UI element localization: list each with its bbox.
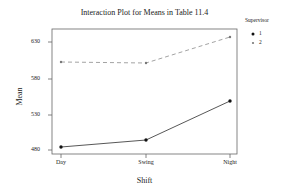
x-tick-night: Night [215,159,245,165]
y-tick-630: 630 [10,38,40,44]
legend-marker-1 [252,33,255,36]
legend-item-1: 1 [259,30,262,36]
y-axis-label: Mean [15,82,24,112]
series-2-line [61,37,230,63]
y-tick-530: 530 [10,111,40,117]
x-axis-label: Shift [52,176,237,185]
legend-label-2: 2 [259,39,262,45]
y-tick-480: 480 [10,146,40,152]
y-axis-ticks [48,42,52,150]
plot-frame [52,29,237,154]
x-tick-swing: Swing [131,159,161,165]
legend-label-1: 1 [259,30,262,36]
legend-title: Supervisor [245,17,269,23]
x-axis-ticks [61,154,230,158]
series-2-markers [60,36,231,64]
x-tick-day: Day [46,159,76,165]
y-tick-580: 580 [10,75,40,81]
legend-item-2: 2 [259,39,262,45]
series-1-markers [59,99,231,148]
plot-area [0,0,285,195]
legend-marker-2 [252,42,254,44]
